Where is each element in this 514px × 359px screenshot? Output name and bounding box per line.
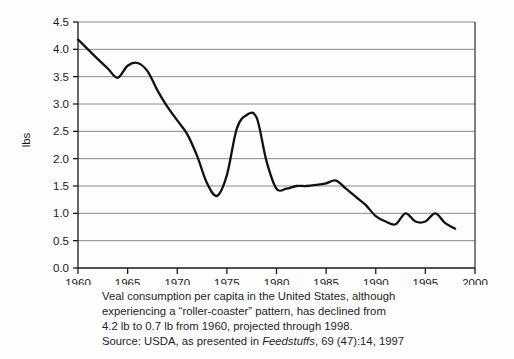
figure-caption: Veal consumption per capita in the Unite…: [102, 289, 502, 349]
y-axis-tick-label: 3.0: [53, 98, 69, 110]
x-axis-tick-label: 1980: [264, 277, 290, 285]
y-axis-title: lbs: [20, 132, 32, 147]
line-chart-svg: 0.00.51.01.52.02.53.03.54.04.5 196019651…: [0, 0, 514, 285]
gridlines-group: [78, 22, 475, 241]
caption-line-2: experiencing a “roller-coaster” pattern,…: [102, 304, 502, 319]
veal-consumption-figure: 0.00.51.01.52.02.53.03.54.04.5 196019651…: [0, 0, 514, 359]
data-series-line: [78, 39, 455, 228]
y-axis-tick-label: 0.5: [53, 235, 69, 247]
x-axis-tick-label: 1960: [65, 277, 91, 285]
x-axis-tick-label: 2000: [462, 277, 488, 285]
y-axis-tick-label: 0.0: [53, 262, 69, 274]
y-axis-tick-label: 2.5: [53, 125, 69, 137]
x-axis-ticks-group: 196019651970197519801985199019952000: [65, 268, 488, 285]
source-journal-name: Feedstuffs: [262, 335, 315, 347]
source-suffix: , 69 (47):14, 1997: [315, 335, 404, 347]
x-axis-tick-label: 1975: [214, 277, 240, 285]
x-axis-tick-label: 1970: [164, 277, 190, 285]
x-axis-tick-label: 1995: [413, 277, 439, 285]
x-axis-tick-label: 1990: [363, 277, 389, 285]
y-axis-tick-label: 1.0: [53, 207, 69, 219]
x-axis-tick-label: 1985: [313, 277, 339, 285]
y-axis-tick-label: 2.0: [53, 153, 69, 165]
source-prefix: Source: USDA, as presented in: [102, 335, 262, 347]
y-axis-tick-label: 1.5: [53, 180, 69, 192]
caption-line-1: Veal consumption per capita in the Unite…: [102, 289, 502, 304]
y-axis-tick-label: 4.0: [53, 43, 69, 55]
caption-line-3: 4.2 lb to 0.7 lb from 1960, projected th…: [102, 319, 502, 334]
caption-source-line: Source: USDA, as presented in Feedstuffs…: [102, 334, 502, 349]
x-axis-tick-label: 1965: [115, 277, 141, 285]
y-axis-tick-label: 3.5: [53, 71, 69, 83]
chart-plot-area: 0.00.51.01.52.02.53.03.54.04.5 196019651…: [0, 0, 514, 285]
y-axis-ticks-group: 0.00.51.01.52.02.53.03.54.04.5: [53, 16, 78, 274]
y-axis-tick-label: 4.5: [53, 16, 69, 28]
